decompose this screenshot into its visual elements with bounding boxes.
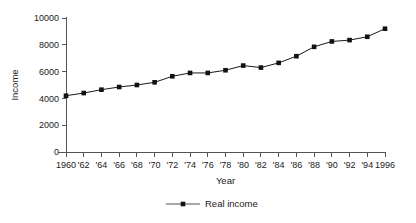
x-tick-label: '76 [202,160,214,170]
data-point-marker [81,91,86,96]
y-tick-label: 6000 [39,67,59,77]
data-point-marker [347,38,352,43]
data-point-marker [170,74,175,79]
x-tick-label: '64 [96,160,108,170]
x-tick-label: '66 [113,160,125,170]
data-point-marker [117,85,122,90]
series-line-0 [66,29,385,96]
x-tick-label: '88 [308,160,320,170]
x-tick-label: '80 [237,160,249,170]
x-tick-label: 1996 [375,160,395,170]
data-point-marker [312,45,317,50]
data-point-marker [259,65,264,70]
x-tick-label: '68 [131,160,143,170]
x-tick-label: '72 [166,160,178,170]
x-axis-title: Year [216,175,235,186]
data-point-marker [365,34,370,39]
y-tick-label: 2000 [39,120,59,130]
x-tick-label: '74 [184,160,196,170]
x-tick-label: '92 [344,160,356,170]
x-tick-label: '94 [361,160,373,170]
data-point-marker [99,87,104,92]
y-tick-label: 10000 [34,13,59,23]
y-tick-label: 4000 [39,94,59,104]
x-tick-label: 1960 [56,160,76,170]
y-axis-title: Income [9,69,20,100]
data-point-marker [205,71,210,76]
x-tick-label: '78 [220,160,232,170]
x-tick-label: '82 [255,160,267,170]
legend-marker [181,202,186,207]
data-point-marker [135,83,140,88]
x-tick-label: '86 [291,160,303,170]
data-point-marker [276,61,281,66]
x-tick-label: '62 [78,160,90,170]
data-point-marker [188,71,193,76]
income-line-chart: 02000400060008000100001960'62'64'66'68'7… [0,0,416,223]
y-tick-label: 0 [54,147,59,157]
data-point-marker [330,39,335,44]
x-tick-label: '84 [273,160,285,170]
data-point-marker [383,26,388,31]
x-tick-label: '90 [326,160,338,170]
data-point-marker [64,93,69,98]
legend-label-real-income: Real income [205,198,258,209]
y-tick-label: 8000 [39,40,59,50]
chart-container: 02000400060008000100001960'62'64'66'68'7… [0,0,416,223]
data-point-marker [294,54,299,59]
x-tick-label: '70 [149,160,161,170]
data-point-marker [223,68,228,73]
data-point-marker [152,80,157,85]
data-point-marker [241,63,246,68]
